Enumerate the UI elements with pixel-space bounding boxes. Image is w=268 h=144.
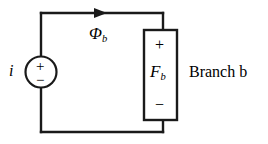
mmf-subscript: b bbox=[160, 71, 165, 82]
branch-caption: Branch b bbox=[189, 64, 247, 80]
source-minus-sign: − bbox=[36, 73, 44, 88]
flux-symbol: Φ bbox=[89, 24, 102, 43]
flux-subscript: b bbox=[102, 33, 107, 44]
element-plus-sign: + bbox=[155, 37, 164, 53]
mmf-label: Fb bbox=[150, 63, 166, 82]
current-source-label: i bbox=[9, 63, 13, 79]
arrow-right-icon bbox=[94, 8, 107, 18]
mmf-symbol: F bbox=[150, 62, 160, 81]
figure-canvas: i + − Φb + − Fb Branch b bbox=[0, 0, 268, 144]
flux-label: Φb bbox=[89, 25, 107, 44]
element-minus-sign: − bbox=[155, 97, 164, 113]
